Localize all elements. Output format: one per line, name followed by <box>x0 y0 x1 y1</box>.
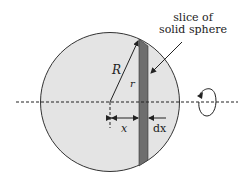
sphere-slice-diagram: slice of solid sphere R r x dx <box>0 0 242 180</box>
label-R: R <box>111 63 121 77</box>
label-x: x <box>121 122 128 135</box>
label-dx: dx <box>153 122 167 135</box>
title-line2: solid sphere <box>159 23 227 36</box>
